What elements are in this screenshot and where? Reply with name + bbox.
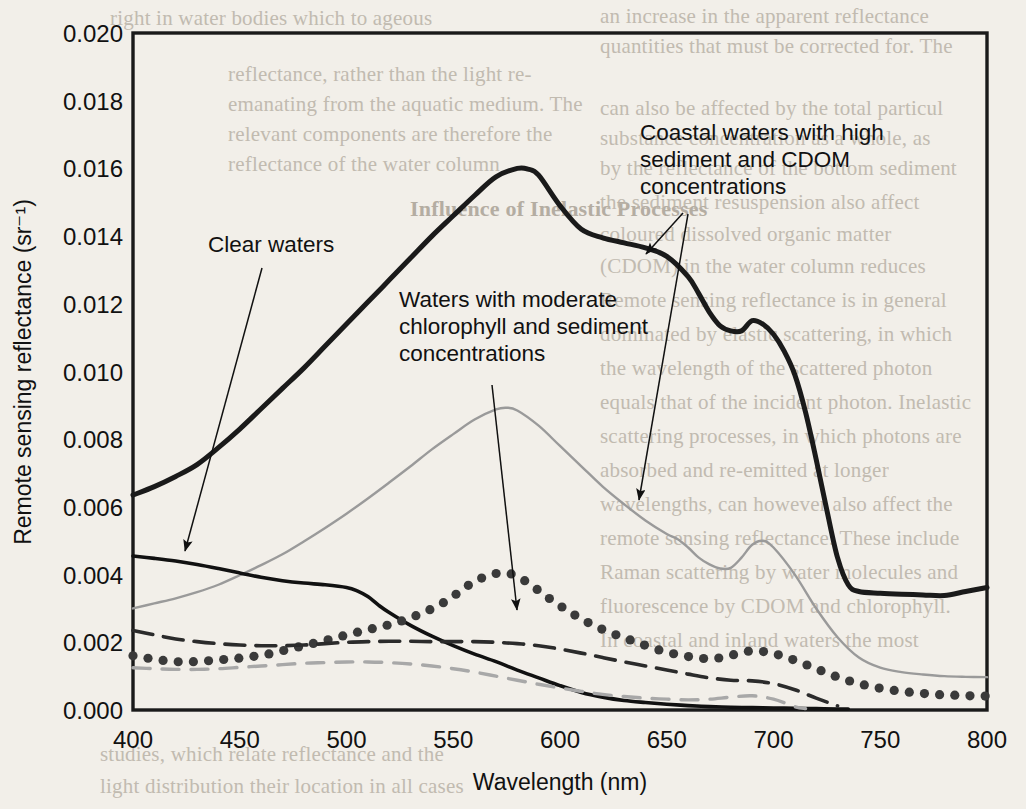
data-point [128,651,137,660]
y-tick-label: 0.020 [63,20,123,47]
data-point [533,585,542,594]
data-point [684,652,693,661]
data-point [890,686,899,695]
annotation-text: Coastal waters with highsediment and CDO… [640,120,884,199]
data-point [920,689,929,698]
series-line [133,556,848,709]
figure-remote-sensing-reflectance: 0.0000.0020.0040.0060.0080.0100.0120.014… [0,0,1026,809]
annotation-moderate: Waters with moderatechlorophyll and sedi… [399,287,649,610]
data-point [158,656,167,665]
y-tick-label: 0.014 [63,223,123,250]
data-point [570,610,579,619]
data-point [905,688,914,697]
y-axis-label: Remote sensing reflectance (sr⁻¹) [10,199,36,545]
y-tick-label: 0.018 [63,88,123,115]
data-point [759,647,768,656]
data-point [353,628,362,637]
data-point [411,611,420,620]
y-tick-label: 0.004 [63,562,123,589]
data-point [774,650,783,659]
series-line [133,630,838,705]
data-point [234,654,243,663]
x-tick-label: 650 [647,726,687,753]
data-point [545,594,554,603]
y-tick-label: 0.000 [63,697,123,724]
x-tick-label: 450 [220,726,260,753]
data-point [831,672,840,681]
x-tick-label: 550 [433,726,473,753]
data-point [597,624,606,633]
data-point [802,660,811,669]
data-point [935,690,944,699]
annotation-leader-line [185,268,262,551]
x-tick-label: 750 [860,726,900,753]
y-tick-label: 0.010 [63,359,123,386]
x-tick-label: 400 [113,726,153,753]
data-point [669,649,678,658]
x-axis-tick-labels: 400450500550600650700750800 [113,726,1007,753]
data-point [464,581,473,590]
y-tick-label: 0.008 [63,426,123,453]
data-point [219,655,228,664]
data-point [965,691,974,700]
data-point [860,680,869,689]
data-point [788,655,797,664]
y-tick-label: 0.006 [63,494,123,521]
y-tick-label: 0.002 [63,629,123,656]
data-point [699,654,708,663]
data-point [640,640,649,649]
data-point [950,691,959,700]
series-line [133,408,987,678]
data-point [626,635,635,644]
y-tick-label: 0.012 [63,291,123,318]
series-line [133,662,806,709]
data-point [397,616,406,625]
y-axis-tick-labels: 0.0000.0020.0040.0060.0080.0100.0120.014… [63,20,123,724]
data-point [729,650,738,659]
data-point [174,657,183,666]
data-point [520,576,529,585]
x-tick-label: 700 [753,726,793,753]
data-point [714,653,723,662]
data-point [845,676,854,685]
data-point [875,683,884,692]
reflectance-spectra-chart: 0.0000.0020.0040.0060.0080.0100.0120.014… [0,0,1026,809]
y-tick-label: 0.016 [63,155,123,182]
series-dotted [128,569,989,701]
x-axis-label: Wavelength (nm) [473,769,647,795]
data-point [744,647,753,656]
x-tick-label: 800 [967,726,1007,753]
data-point [654,645,663,654]
data-point [611,630,620,639]
data-point [425,605,434,614]
annotation-layer: Clear watersWaters with moderatechloroph… [185,120,884,610]
annotation-text: Clear waters [208,232,334,257]
annotation-text: Waters with moderatechlorophyll and sedi… [399,287,649,366]
data-point [383,621,392,630]
data-point [583,618,592,627]
data-point [189,657,198,666]
data-point [492,569,501,578]
data-point [557,602,566,611]
data-point [451,590,460,599]
data-point [507,569,516,578]
x-tick-label: 500 [326,726,366,753]
data-point [981,691,990,700]
data-point [477,573,486,582]
data-point [338,631,347,640]
annotation-leader-line [646,213,683,254]
data-point [816,666,825,675]
annotation-clear-waters: Clear waters [185,232,334,551]
scanned-page: right in water bodies which to ageousan … [0,0,1026,809]
data-point [368,624,377,633]
data-point [264,649,273,658]
x-tick-label: 600 [540,726,580,753]
annotation-coastal: Coastal waters with highsediment and CDO… [639,120,884,500]
data-point [439,598,448,607]
data-point [143,654,152,663]
data-point [249,652,258,661]
data-point [204,656,213,665]
